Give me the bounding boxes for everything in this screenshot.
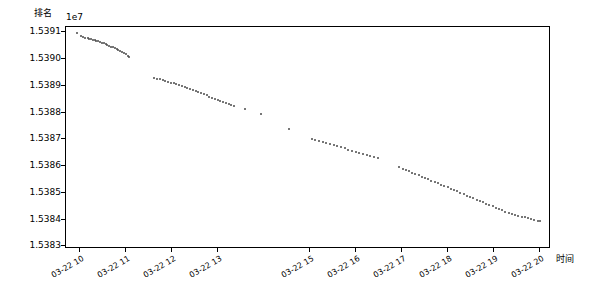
data-point <box>167 81 169 83</box>
data-point <box>181 85 183 87</box>
data-point <box>421 176 423 178</box>
data-point <box>456 190 458 192</box>
y-tick-mark <box>61 85 65 86</box>
data-point <box>159 78 161 80</box>
data-point <box>358 152 360 154</box>
data-point <box>533 219 535 221</box>
y-tick-label: 1.5384 <box>30 214 62 224</box>
data-point <box>469 196 471 198</box>
y-tick-mark <box>61 165 65 166</box>
data-point <box>195 90 197 92</box>
x-tick-mark <box>401 248 402 252</box>
x-tick-mark <box>79 248 80 252</box>
y-tick-label: 1.5390 <box>30 53 62 63</box>
data-point <box>521 216 523 218</box>
y-tick-mark <box>61 31 65 32</box>
data-point <box>437 182 439 184</box>
data-point <box>208 96 210 98</box>
data-point <box>508 212 510 214</box>
data-point <box>173 82 175 84</box>
data-point <box>517 215 519 217</box>
data-point <box>501 209 503 211</box>
data-point <box>398 166 400 168</box>
data-point <box>418 174 420 176</box>
y-tick-mark <box>61 219 65 220</box>
data-point <box>325 142 327 144</box>
scatter-chart: 排名 1e7 1.53831.53841.53851.53861.53871.5… <box>0 0 590 307</box>
data-point <box>539 220 541 222</box>
data-point <box>175 83 177 85</box>
y-tick-label: 1.5388 <box>30 107 62 117</box>
data-point <box>411 172 413 174</box>
data-point <box>362 153 364 155</box>
data-point <box>156 78 158 80</box>
data-point <box>427 178 429 180</box>
data-point <box>336 145 338 147</box>
x-tick-mark <box>217 248 218 252</box>
data-point <box>186 87 188 89</box>
data-point <box>311 138 313 140</box>
x-tick-mark <box>355 248 356 252</box>
data-point <box>495 207 497 209</box>
x-tick-mark <box>125 248 126 252</box>
x-tick-label: 03-22 13 <box>179 254 223 285</box>
data-point <box>485 203 487 205</box>
y-tick-label: 1.5387 <box>30 133 62 143</box>
data-point <box>472 197 474 199</box>
x-axis-label: 时间 <box>556 252 574 265</box>
y-tick-mark <box>61 112 65 113</box>
data-point <box>260 113 262 115</box>
data-point <box>476 199 478 201</box>
data-point <box>434 181 436 183</box>
data-point <box>405 169 407 171</box>
x-tick-mark <box>539 248 540 252</box>
data-point <box>488 204 490 206</box>
y-tick-label: 1.5386 <box>30 160 62 170</box>
data-point <box>214 98 216 100</box>
data-point <box>197 91 199 93</box>
data-point <box>498 208 500 210</box>
x-tick-label: 03-22 15 <box>271 254 315 285</box>
data-point <box>211 97 213 99</box>
data-point <box>408 170 410 172</box>
y-axis-offset-exponent: 1e7 <box>66 12 83 22</box>
data-point <box>514 214 516 216</box>
x-tick-label: 03-22 16 <box>317 254 361 285</box>
data-point <box>288 128 290 130</box>
x-tick-label: 03-22 18 <box>409 254 453 285</box>
data-point <box>314 139 316 141</box>
y-axis-tick-labels: 1.53831.53841.53851.53861.53871.53881.53… <box>0 0 61 307</box>
data-point <box>450 188 452 190</box>
x-tick-mark <box>309 248 310 252</box>
data-point <box>228 103 230 105</box>
data-point <box>192 89 194 91</box>
data-point <box>233 105 235 107</box>
data-point <box>527 217 529 219</box>
y-tick-label: 1.5391 <box>30 26 62 36</box>
data-point <box>366 154 368 156</box>
data-point <box>402 168 404 170</box>
data-point <box>203 93 205 95</box>
data-point <box>200 92 202 94</box>
data-point <box>206 94 208 96</box>
data-point <box>170 82 172 84</box>
data-point <box>466 195 468 197</box>
x-tick-label: 03-22 12 <box>133 254 177 285</box>
data-point <box>347 149 349 151</box>
data-point <box>344 147 346 149</box>
y-tick-label: 1.5385 <box>30 187 62 197</box>
data-point <box>504 211 506 213</box>
data-point <box>217 99 219 101</box>
data-point <box>128 56 130 58</box>
y-tick-label: 1.5389 <box>30 80 62 90</box>
y-tick-label: 1.5383 <box>30 240 62 250</box>
data-point <box>219 100 221 102</box>
data-point <box>479 200 481 202</box>
data-point <box>230 104 232 106</box>
data-point <box>225 102 227 104</box>
x-tick-label: 03-22 20 <box>501 254 545 285</box>
data-point <box>318 140 320 142</box>
data-point <box>482 201 484 203</box>
data-point <box>459 192 461 194</box>
data-point <box>463 193 465 195</box>
